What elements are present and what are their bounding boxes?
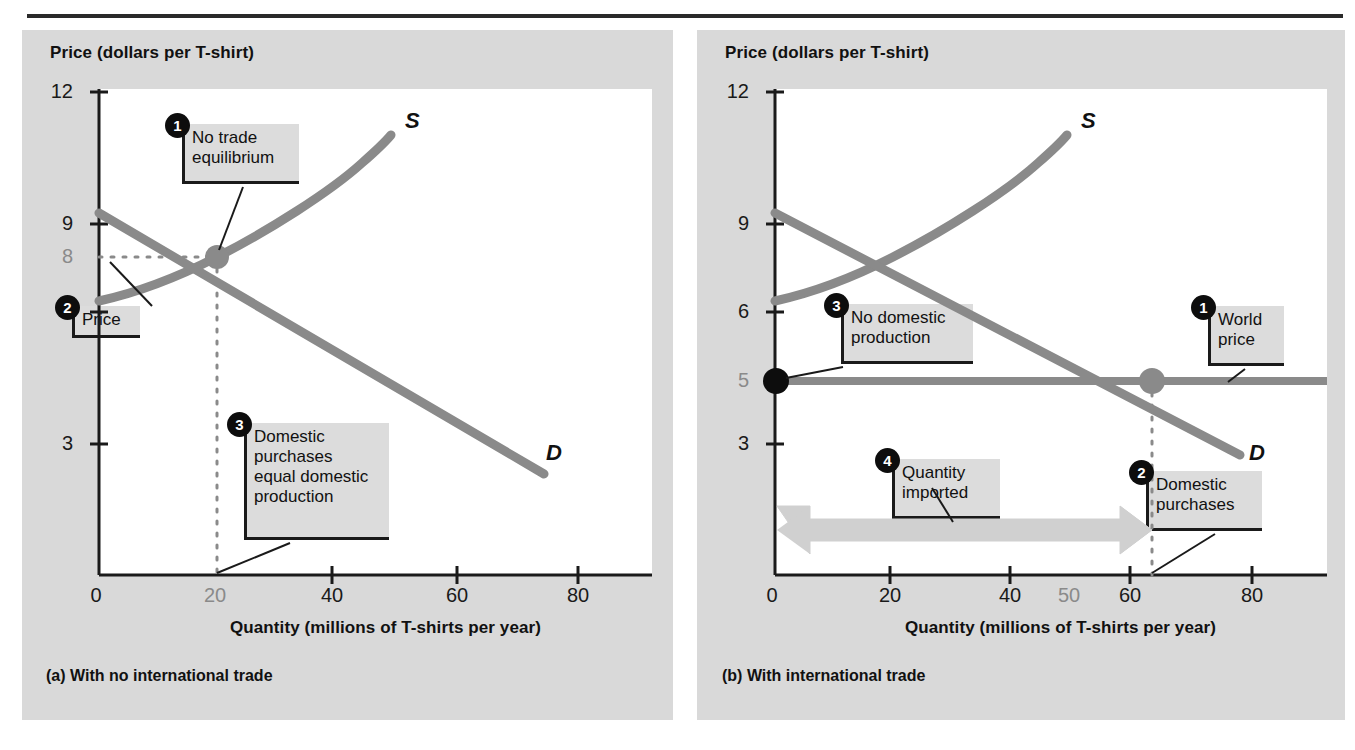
panel-a-xtick-60: 60	[437, 584, 477, 607]
figure-container: Price (dollars per T-shirt) 12 9 8 6 3 0…	[0, 0, 1355, 750]
panel-a-x-axis-title: Quantity (millions of T-shirts per year)	[230, 618, 541, 638]
panel-b-ytick-3: 3	[719, 432, 749, 455]
panel-b-callout-2-badge: 2	[1129, 460, 1154, 485]
top-rule	[27, 14, 1343, 18]
panel-b-callout-1-badge: 1	[1191, 295, 1216, 320]
panel-b-supply-label: S	[1081, 108, 1096, 134]
panel-b-ytick-6: 6	[719, 300, 749, 323]
panel-b-callout-3-badge: 3	[824, 293, 849, 318]
panel-b-demand-label: D	[1249, 440, 1265, 466]
panel-b-callout-1-box: World price	[1208, 306, 1284, 366]
panel-a-xtick-20-highlight: 20	[195, 584, 235, 607]
panel-a-xtick-40: 40	[312, 584, 352, 607]
panel-a-xtick-0: 0	[76, 584, 116, 607]
panel-b-ytick-5-highlight: 5	[719, 369, 749, 392]
panel-b-callout-4-box: Quantity imported	[892, 459, 1000, 519]
panel-b-xtick-40: 40	[990, 584, 1030, 607]
panel-b-xtick-50-highlight: 50	[1049, 584, 1089, 607]
panel-b-callout-4-badge: 4	[875, 448, 900, 473]
panel-a-callout-3-badge: 3	[227, 412, 252, 437]
panel-b-xtick-20: 20	[870, 584, 910, 607]
panel-a-ytick-3: 3	[43, 432, 73, 455]
panel-a-xtick-80: 80	[558, 584, 598, 607]
panel-b-xtick-60: 60	[1110, 584, 1150, 607]
panel-b-xtick-80: 80	[1232, 584, 1272, 607]
panel-b-callout-2-box: Domestic purchases	[1146, 471, 1262, 531]
panel-a-ytick-9: 9	[43, 212, 73, 235]
panel-a-demand-label: D	[546, 440, 562, 466]
panel-b-xtick-0: 0	[752, 584, 792, 607]
panel-b-y-axis-title: Price (dollars per T-shirt)	[725, 43, 929, 63]
panel-a-callout-3-box: Domestic purchases equal domestic produc…	[244, 423, 389, 540]
panel-a-callout-1-badge: 1	[165, 113, 190, 138]
panel-a-ytick-8-highlight: 8	[43, 245, 73, 268]
panel-b-x-axis-title: Quantity (millions of T-shirts per year)	[905, 618, 1216, 638]
panel-a-callout-1-box: No trade equilibrium	[182, 124, 299, 184]
panel-a-supply-label: S	[405, 108, 420, 134]
panel-b-ytick-12: 12	[719, 80, 749, 103]
panel-a-caption: (a) With no international trade	[46, 667, 273, 685]
panel-a-callout-2-box: Price	[72, 306, 140, 338]
panel-a-y-axis-title: Price (dollars per T-shirt)	[50, 43, 254, 63]
panel-a-ytick-12: 12	[43, 80, 73, 103]
panel-b-ytick-9: 9	[719, 212, 749, 235]
panel-b-caption: (b) With international trade	[722, 667, 925, 685]
panel-a-callout-2-badge: 2	[55, 295, 80, 320]
panel-b-callout-3-box: No domestic production	[841, 304, 973, 364]
